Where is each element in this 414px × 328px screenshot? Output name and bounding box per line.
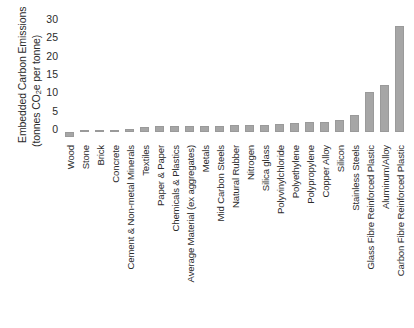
bar-slot — [92, 17, 107, 143]
y-tick-20: 20 — [32, 51, 58, 61]
bar[interactable] — [125, 129, 135, 132]
bar-slot — [182, 17, 197, 143]
bar[interactable] — [155, 126, 165, 131]
x-label-slot: Chemicals & Plastics — [167, 143, 182, 328]
bar[interactable] — [395, 26, 405, 132]
bar-slot — [197, 17, 212, 143]
bar-slot — [272, 17, 287, 143]
bar-slot — [167, 17, 182, 143]
bar[interactable] — [350, 115, 360, 131]
bar[interactable] — [335, 120, 345, 132]
x-label-slot: Polyethylene — [287, 143, 302, 328]
x-axis-label: Stainless Steels — [349, 145, 360, 211]
bar[interactable] — [215, 126, 225, 132]
x-label-slot: Textiles — [137, 143, 152, 328]
x-label-slot: Carbon Fibre Reinforced Plastic — [392, 143, 407, 328]
x-axis-label: Cement & Non-metal Minerals — [124, 145, 135, 269]
bar[interactable] — [230, 125, 240, 132]
x-axis-label: Silica glass — [259, 145, 270, 191]
y-axis-ticks: 30 25 20 15 10 5 0 — [32, 14, 58, 140]
x-axis-label: Wood — [64, 145, 75, 169]
y-tick-10: 10 — [32, 87, 58, 97]
x-axis-label: Stone — [79, 145, 90, 169]
x-label-slot: Metals — [197, 143, 212, 328]
x-axis-label: Textiles — [139, 145, 150, 176]
bar-slot — [152, 17, 167, 143]
bar-slot — [242, 17, 257, 143]
x-label-slot: Silicon — [332, 143, 347, 328]
bar[interactable] — [365, 92, 375, 132]
bar-series — [62, 17, 407, 143]
bar-slot — [287, 17, 302, 143]
x-axis-label: Polyethylene — [289, 145, 300, 198]
bar-slot — [137, 17, 152, 143]
bar-slot — [347, 17, 362, 143]
bar-slot — [362, 17, 377, 143]
x-label-slot: Polyvinylchloride — [272, 143, 287, 328]
bar[interactable] — [305, 122, 315, 132]
bar[interactable] — [380, 85, 390, 132]
x-label-slot: Mid Carbon Steels — [212, 143, 227, 328]
x-label-slot: Natural Rubber — [227, 143, 242, 328]
x-label-slot: Concrete — [107, 143, 122, 328]
bar-slot — [302, 17, 317, 143]
bar-slot — [392, 17, 407, 143]
y-tick-5: 5 — [32, 106, 58, 116]
x-axis-label: Glass Fibre Reinforced Plastic — [364, 145, 375, 270]
bar[interactable] — [95, 130, 105, 132]
bar-slot — [77, 17, 92, 143]
x-axis-label: Polypropylene — [304, 145, 315, 204]
x-label-slot: Brick — [92, 143, 107, 328]
x-label-slot: Glass Fibre Reinforced Plastic — [362, 143, 377, 328]
bar-slot — [227, 17, 242, 143]
x-label-slot: Silica glass — [257, 143, 272, 328]
bar[interactable] — [275, 124, 285, 132]
bar-slot — [257, 17, 272, 143]
x-axis-labels: WoodStoneBrickConcreteCement & Non-metal… — [62, 143, 407, 328]
bar-slot — [332, 17, 347, 143]
bar-slot — [317, 17, 332, 143]
x-axis-label: Silicon — [334, 145, 345, 172]
y-tick-30: 30 — [32, 14, 58, 24]
x-label-slot: Cement & Non-metal Minerals — [122, 143, 137, 328]
bar[interactable] — [140, 127, 150, 132]
bar-slot — [122, 17, 137, 143]
x-label-slot: Nitrogen — [242, 143, 257, 328]
x-label-slot: Wood — [62, 143, 77, 328]
bar[interactable] — [245, 125, 255, 132]
y-axis-title-line1: Embedded Carbon Emissions — [16, 7, 28, 143]
bar-slot — [107, 17, 122, 143]
x-axis-label: Aluminum/Alloy — [379, 145, 390, 209]
y-tick-25: 25 — [32, 32, 58, 42]
bar[interactable] — [80, 130, 90, 132]
bar-slot — [212, 17, 227, 143]
x-label-slot: Stainless Steels — [347, 143, 362, 328]
bar[interactable] — [290, 123, 300, 131]
x-axis-label: Paper & Paper — [154, 145, 165, 206]
x-axis-label: Average Material (ex aggregates) — [184, 145, 195, 282]
x-axis-label: Polyvinylchloride — [274, 145, 285, 214]
bar[interactable] — [110, 130, 120, 132]
x-axis-label: Nitrogen — [244, 145, 255, 180]
x-axis-label: Concrete — [109, 145, 120, 183]
x-axis-label: Carbon Fibre Reinforced Plastic — [394, 145, 405, 276]
bar[interactable] — [65, 132, 75, 137]
bar[interactable] — [320, 122, 330, 132]
y-tick-0: 0 — [32, 124, 58, 134]
bar-slot — [377, 17, 392, 143]
x-axis-label: Brick — [94, 145, 105, 166]
x-axis-label: Copper Alloy — [319, 145, 330, 198]
bar[interactable] — [260, 125, 270, 132]
x-axis-label: Natural Rubber — [229, 145, 240, 208]
x-label-slot: Aluminum/Alloy — [377, 143, 392, 328]
x-axis-label: Chemicals & Plastics — [169, 145, 180, 232]
x-label-slot: Polypropylene — [302, 143, 317, 328]
bar[interactable] — [200, 126, 210, 132]
bar[interactable] — [185, 126, 195, 132]
bar-slot — [62, 17, 77, 143]
bar[interactable] — [170, 126, 180, 132]
x-label-slot: Stone — [77, 143, 92, 328]
y-tick-15: 15 — [32, 69, 58, 79]
x-label-slot: Paper & Paper — [152, 143, 167, 328]
x-axis-label: Metals — [199, 145, 210, 172]
